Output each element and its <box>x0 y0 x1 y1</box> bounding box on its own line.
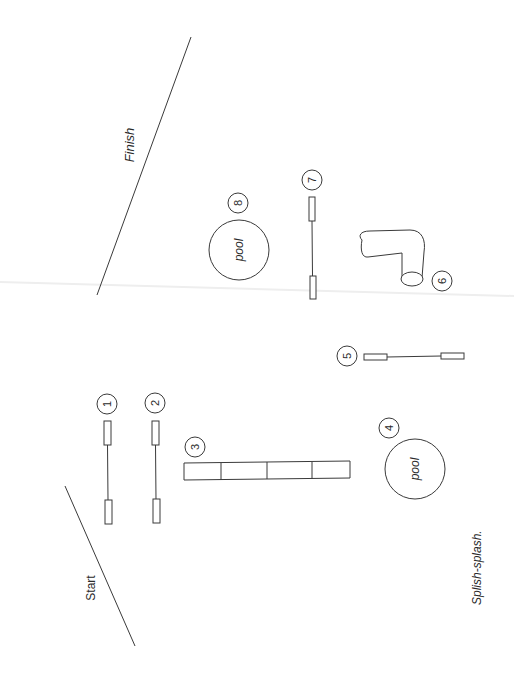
jump-bar <box>156 445 157 500</box>
number-1: 1 <box>101 401 113 407</box>
start-label: Start <box>84 575 98 601</box>
start-line <box>65 486 135 646</box>
finish-line <box>97 37 191 295</box>
obstacle-7-jump: 7 <box>302 170 322 299</box>
jump-bar <box>108 445 109 500</box>
jump-wing-top <box>152 421 159 445</box>
obstacle-3-panels: 3 <box>184 437 350 480</box>
jump-bar <box>312 221 313 276</box>
obstacle-1-jump: 1 <box>97 394 117 524</box>
jump-wing-top <box>104 421 111 445</box>
number-8: 8 <box>232 200 244 206</box>
jump-bar <box>387 356 441 357</box>
number-4: 4 <box>383 425 395 431</box>
jump-wing-bottom <box>153 499 160 523</box>
jump-wing-right <box>441 353 464 359</box>
number-6: 6 <box>436 278 448 284</box>
tunnel-opening <box>401 272 423 286</box>
obstacle-8-pool: 8 pool <box>209 193 269 280</box>
jump-wing-top <box>309 197 315 221</box>
obstacle-5-jump: 5 <box>337 346 464 366</box>
number-5: 5 <box>341 353 353 359</box>
jump-wing-bottom <box>310 276 316 299</box>
jump-wing-left <box>364 354 387 360</box>
obstacle-6-curved-tunnel: 6 <box>360 230 452 291</box>
obstacle-2-jump: 2 <box>145 393 165 523</box>
pool-label: pool <box>232 238 246 262</box>
pool-label: pool <box>408 457 422 481</box>
number-3: 3 <box>189 444 201 450</box>
diagram-caption: Splish-splash. <box>470 530 484 605</box>
jump-wing-bottom <box>105 500 112 524</box>
course-map-diagram: Finish Start 1 2 3 4 pool 5 <box>0 0 514 674</box>
finish-label: Finish <box>122 128 137 163</box>
number-7: 7 <box>306 177 318 183</box>
number-2: 2 <box>149 400 161 406</box>
obstacle-4-pool: 4 pool <box>379 418 445 499</box>
